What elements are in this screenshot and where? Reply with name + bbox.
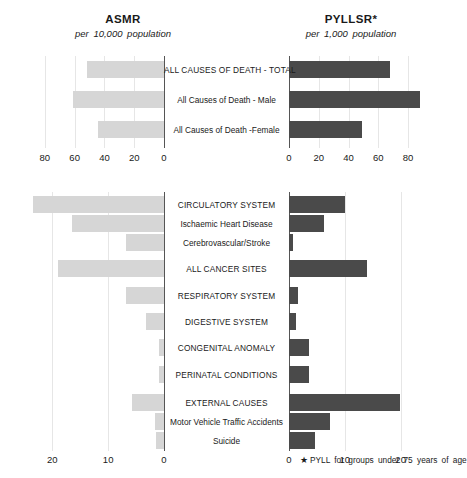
axis-tick-label: 20 (122, 152, 146, 163)
axis-tick-label: 80 (396, 152, 420, 163)
bar-pyllsr-1 (289, 215, 324, 232)
axis-tick-label: 20 (40, 454, 64, 465)
category-label: CIRCULATORY SYSTEM (164, 200, 289, 210)
axis-tick-label: 0 (152, 152, 176, 163)
axis-tick-label: 0 (152, 454, 176, 465)
top-chart-panel: ALL CAUSES OF DEATH - TOTALAll Causes of… (0, 56, 461, 176)
bar-asmr-2 (98, 121, 164, 138)
bar-asmr-9 (155, 413, 164, 430)
category-label: EXTERNAL CAUSES (164, 398, 289, 408)
category-label: DIGESTIVE SYSTEM (164, 317, 289, 327)
bar-asmr-2 (126, 234, 164, 251)
bar-pyllsr-3 (289, 260, 367, 277)
category-label: PERINATAL CONDITIONS (164, 370, 289, 380)
star-icon: ★ (300, 455, 310, 465)
category-label: RESPIRATORY SYSTEM (164, 291, 289, 301)
axis-tick-label: 60 (63, 152, 87, 163)
footnote-text: PYLL for groups under 75 years of age (310, 455, 467, 465)
bar-asmr-5 (146, 313, 164, 330)
bar-pyllsr-9 (289, 413, 330, 430)
asmr-header: ASMR per 10,000 population (28, 12, 218, 41)
category-label: Motor Vehicle Traffic Accidents (164, 417, 289, 427)
bar-asmr-3 (58, 260, 164, 277)
gridline (45, 56, 46, 148)
axis-tick-label: 60 (366, 152, 390, 163)
top-right-axis-ticks: 020406080 (289, 152, 423, 166)
category-label: All Causes of Death -Female (164, 125, 289, 135)
category-label: Ischaemic Heart Disease (164, 219, 289, 229)
bar-asmr-0 (33, 196, 164, 213)
bar-asmr-0 (87, 61, 164, 78)
bar-pyllsr-0 (289, 196, 345, 213)
bottom-left-axis-ticks: 20100 (30, 454, 164, 468)
bar-pyllsr-2 (289, 234, 293, 251)
bar-asmr-1 (72, 215, 164, 232)
bar-pyllsr-1 (289, 91, 420, 108)
category-label: All Causes of Death - Male (164, 95, 289, 105)
gridline (52, 192, 53, 451)
bar-pyllsr-8 (289, 394, 400, 411)
asmr-title: ASMR (28, 12, 218, 26)
asmr-subtitle: per 10,000 population (28, 27, 218, 41)
axis-tick-label: 80 (33, 152, 57, 163)
bar-pyllsr-7 (289, 366, 309, 383)
bar-pyllsr-0 (289, 61, 390, 78)
axis-tick-label: 40 (92, 152, 116, 163)
axis-tick-label: 10 (96, 454, 120, 465)
axis-tick-label: 0 (277, 454, 301, 465)
bar-asmr-1 (73, 91, 164, 108)
gridline (401, 192, 402, 451)
category-label: ALL CAUSES OF DEATH - TOTAL (164, 65, 289, 75)
footnote: ★PYLL for groups under 75 years of age (300, 455, 461, 465)
category-label: Cerebrovascular/Stroke (164, 238, 289, 248)
pyllsr-title: PYLLSR* (256, 12, 446, 26)
category-label: Suicide (164, 436, 289, 446)
axis-tick-label: 0 (277, 152, 301, 163)
gridline (345, 192, 346, 451)
bar-asmr-10 (156, 432, 164, 449)
axis-tick-label: 20 (307, 152, 331, 163)
pyllsr-subtitle: per 1,000 population (256, 27, 446, 41)
category-label: CONGENITAL ANOMALY (164, 343, 289, 353)
bar-pyllsr-10 (289, 432, 315, 449)
axis-tick-label: 40 (337, 152, 361, 163)
bar-asmr-4 (126, 287, 164, 304)
bar-pyllsr-2 (289, 121, 362, 138)
chart-headers: ASMR per 10,000 population PYLLSR* per 1… (0, 0, 461, 56)
top-left-axis-ticks: 806040200 (30, 152, 164, 166)
bar-pyllsr-4 (289, 287, 298, 304)
bar-asmr-8 (132, 394, 164, 411)
pyllsr-header: PYLLSR* per 1,000 population (256, 12, 446, 41)
bar-pyllsr-6 (289, 339, 309, 356)
bottom-chart-panel: CIRCULATORY SYSTEMIschaemic Heart Diseas… (0, 186, 461, 454)
category-label: ALL CANCER SITES (164, 264, 289, 274)
bar-pyllsr-5 (289, 313, 296, 330)
